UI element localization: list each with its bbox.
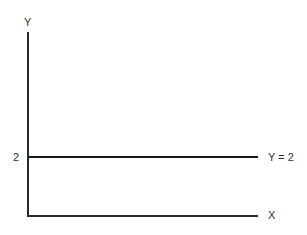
x-axis — [27, 215, 258, 217]
x-axis-label: X — [268, 210, 275, 221]
constant-line — [28, 156, 258, 158]
constant-line-label: Y = 2 — [268, 152, 294, 163]
y-tick-label: 2 — [13, 152, 19, 163]
y-axis-label: Y — [24, 17, 31, 28]
y-axis — [27, 32, 29, 217]
